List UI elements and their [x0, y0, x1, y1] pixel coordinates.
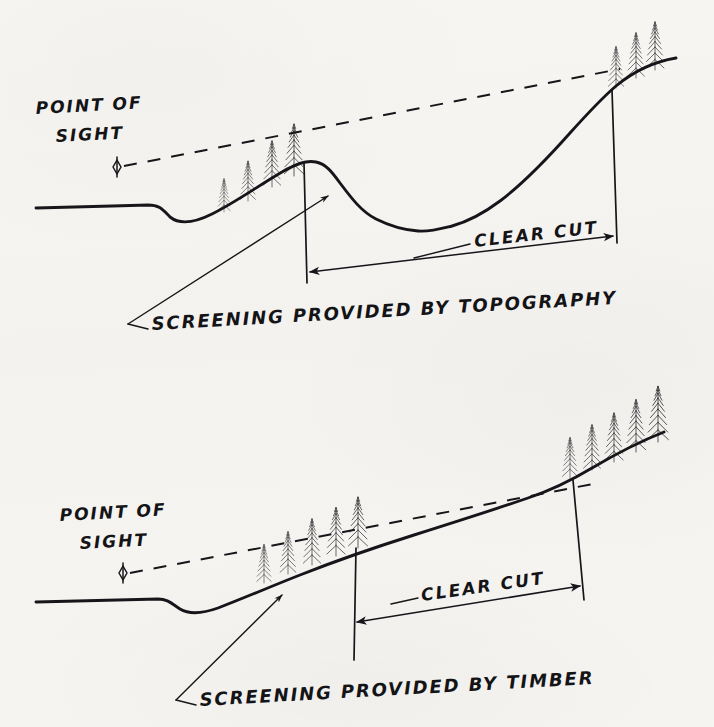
- upper-clear-cut-dimension: [310, 236, 613, 272]
- upper-panel: CLEAR CUT POINT OF SIGHT SCREENING PROVI…: [35, 22, 676, 334]
- upper-witness-line-left: [304, 163, 307, 283]
- upper-point-of-sight-line2: SIGHT: [55, 122, 124, 146]
- lower-point-of-sight-line2: SIGHT: [79, 529, 148, 553]
- eye-diamond-icon: [113, 157, 121, 177]
- upper-witness-line-right: [612, 90, 617, 243]
- upper-midslope-grove: [218, 124, 304, 212]
- upper-ridgetop-grove: [608, 22, 664, 88]
- eye-diamond-icon: [119, 563, 127, 583]
- upper-caption: SCREENING PROVIDED BY TOPOGRAPHY: [151, 287, 618, 334]
- lower-clear-cut-leader: [391, 598, 418, 604]
- lower-witness-line-right: [573, 480, 584, 600]
- lower-clear-cut-label: CLEAR CUT: [420, 568, 546, 605]
- lower-point-of-sight-line1: POINT OF: [59, 499, 167, 525]
- lower-caption-leader-hook: [176, 700, 196, 705]
- upper-terrain-profile: [36, 58, 676, 231]
- lower-caption: SCREENING PROVIDED BY TIMBER: [199, 667, 595, 710]
- lower-sight-line: [130, 483, 598, 573]
- diagram-canvas: CLEAR CUT POINT OF SIGHT SCREENING PROVI…: [0, 0, 714, 727]
- upper-point-of-sight-line1: POINT OF: [35, 92, 143, 118]
- lower-upper-slope-grove: [562, 386, 668, 478]
- lower-panel: CLEAR CUT POINT OF SIGHT SCREENING PROVI…: [36, 386, 668, 710]
- figure-page: CLEAR CUT POINT OF SIGHT SCREENING PROVI…: [0, 0, 714, 727]
- upper-sight-line: [124, 69, 620, 166]
- upper-caption-leader-hook: [128, 324, 148, 329]
- upper-clear-cut-label: CLEAR CUT: [473, 217, 599, 251]
- lower-caption-leader: [176, 595, 282, 700]
- lower-witness-line-left: [354, 548, 356, 660]
